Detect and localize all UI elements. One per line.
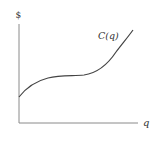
curve-label: C(q) — [98, 30, 119, 41]
y-axis-label: $ — [16, 10, 22, 20]
cost-curve-chart: $ q C(q) — [0, 0, 153, 144]
x-axis-label: q — [143, 117, 149, 128]
